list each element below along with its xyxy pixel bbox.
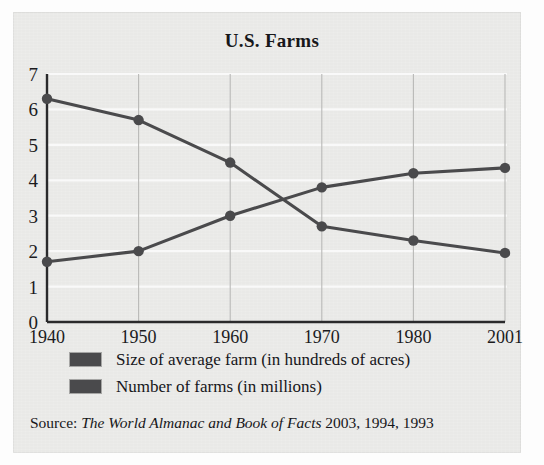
chart-legend: Size of average farm (in hundreds of acr…	[70, 346, 500, 400]
y-tick-label-4: 4	[29, 170, 39, 191]
legend-item-size-of-average-farm[interactable]: Size of average farm (in hundreds of acr…	[70, 346, 500, 373]
y-tick-label-6: 6	[29, 99, 39, 120]
y-tick-label-3: 3	[29, 206, 39, 227]
figure-container: U.S. Farms 01234567 19401950196019701980…	[0, 0, 544, 465]
data-point-marker	[42, 94, 52, 104]
vertical-gridlines	[47, 74, 505, 322]
data-point-marker	[408, 235, 418, 245]
series-line	[47, 99, 505, 253]
x-tick-label-1970: 1970	[304, 327, 340, 347]
legend-swatch-number-of-farms	[70, 380, 101, 393]
x-tick-label-1960: 1960	[212, 327, 248, 347]
x-tick-label-1950: 1950	[121, 327, 157, 347]
source-years: 2003, 1994, 1993	[325, 414, 434, 431]
legend-swatch-size-of-average-farm	[70, 353, 101, 366]
data-point-marker	[42, 257, 52, 267]
data-point-marker	[133, 246, 143, 256]
legend-item-number-of-farms[interactable]: Number of farms (in millions)	[70, 373, 500, 400]
source-publication-title: The World Almanac and Book of Facts	[81, 414, 321, 431]
source-note: Source: The World Almanac and Book of Fa…	[30, 414, 434, 432]
y-tick-label-1: 1	[29, 277, 39, 298]
series-number-of-farms	[42, 94, 510, 259]
x-tick-label-1980: 1980	[395, 327, 431, 347]
source-prefix: Source:	[30, 414, 77, 431]
axis-lines	[47, 74, 505, 322]
data-point-marker	[133, 115, 143, 125]
y-tick-label-5: 5	[29, 135, 39, 156]
data-point-marker	[500, 163, 510, 173]
data-point-marker	[317, 221, 327, 231]
data-point-marker	[408, 168, 418, 178]
x-tick-label-2001: 2001	[487, 327, 523, 347]
x-tick-label-1940: 1940	[29, 327, 65, 347]
x-axis-tick-labels: 194019501960197019802001	[29, 327, 523, 347]
y-axis-tick-labels: 01234567	[29, 64, 39, 333]
data-point-marker	[317, 182, 327, 192]
y-tick-label-2: 2	[29, 241, 39, 262]
legend-label-size-of-average-farm: Size of average farm (in hundreds of acr…	[116, 350, 410, 370]
data-point-marker	[500, 248, 510, 258]
y-tick-label-7: 7	[29, 64, 39, 85]
data-point-marker	[225, 211, 235, 221]
data-point-marker	[225, 157, 235, 167]
legend-label-number-of-farms: Number of farms (in millions)	[116, 377, 322, 397]
